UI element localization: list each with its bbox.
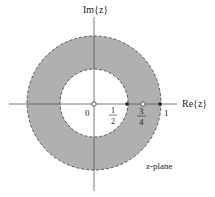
half-numerator: 1 (111, 106, 115, 115)
origin-label: 0 (85, 108, 90, 118)
half-denominator: 2 (111, 117, 115, 126)
z-plane-figure: Im{z} Re{z} 0 1 2 3 4 1 z-plane (0, 0, 215, 197)
z-plane-diagram: Im{z} Re{z} 0 1 2 3 4 1 z-plane (0, 0, 215, 197)
z-plane-label: z-plane (146, 161, 172, 171)
pole-one-marker (158, 102, 162, 106)
zero-origin-marker (92, 102, 96, 106)
real-axis-label: Re{z} (182, 98, 207, 109)
imag-axis-label: Im{z} (83, 4, 108, 15)
pole-half-marker (125, 102, 129, 106)
three-quarter-denominator: 4 (139, 117, 144, 127)
three-quarter-numerator: 3 (139, 106, 144, 116)
one-label: 1 (164, 108, 169, 118)
